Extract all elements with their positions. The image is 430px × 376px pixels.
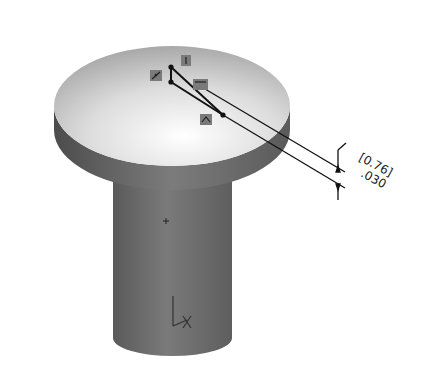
midpoint-relation-icon[interactable] bbox=[200, 114, 212, 125]
vertical-relation-icon[interactable] bbox=[181, 55, 191, 66]
cylinder-shaft[interactable] bbox=[113, 175, 232, 356]
coincident-relation-icon[interactable] bbox=[150, 70, 162, 81]
horizontal-relation-icon[interactable] bbox=[193, 79, 208, 90]
head-top-face[interactable] bbox=[54, 46, 290, 166]
cad-graphics-area[interactable]: [0.76] .030 bbox=[0, 0, 430, 376]
dimension-label[interactable]: [0.76] .030 bbox=[357, 150, 395, 191]
